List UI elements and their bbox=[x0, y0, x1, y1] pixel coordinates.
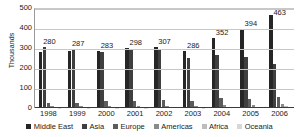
y-tick-label: 200 bbox=[12, 64, 32, 72]
y-tick-label: 300 bbox=[12, 44, 32, 52]
legend-label: Americas bbox=[161, 123, 192, 131]
bar-value-label: 307 bbox=[150, 38, 179, 46]
bar-group: 394 bbox=[236, 9, 265, 108]
bar-group: 307 bbox=[150, 9, 179, 108]
x-tick-label: 2002 bbox=[150, 110, 179, 118]
legend-swatch-icon bbox=[237, 124, 242, 129]
y-tick-label: 0 bbox=[12, 104, 32, 112]
legend-label: Europe bbox=[121, 123, 145, 131]
legend-label: Asia bbox=[90, 123, 105, 131]
x-axis-line bbox=[35, 107, 294, 108]
bar-value-label: 463 bbox=[265, 9, 294, 17]
bar-chart: Thousands 0100200300400500 2802872832983… bbox=[0, 0, 299, 137]
x-tick-label: 2003 bbox=[178, 110, 207, 118]
legend-item-americas[interactable]: Americas bbox=[154, 123, 193, 131]
bar-value-label: 298 bbox=[121, 39, 150, 47]
gridline bbox=[35, 89, 294, 90]
bars bbox=[64, 9, 93, 108]
legend-item-oceania[interactable]: Oceania bbox=[237, 123, 272, 131]
legend-swatch-icon bbox=[154, 124, 159, 129]
legend-label: Oceania bbox=[245, 123, 273, 131]
legend-item-middle-east[interactable]: Middle East bbox=[26, 123, 73, 131]
legend-swatch-icon bbox=[82, 124, 87, 129]
gridline bbox=[35, 9, 294, 10]
plot-area: 280287283298307286352394463 bbox=[34, 8, 294, 108]
bar-groups: 280287283298307286352394463 bbox=[35, 9, 294, 108]
bars bbox=[150, 9, 179, 108]
x-tick-label: 2004 bbox=[207, 110, 236, 118]
legend-swatch-icon bbox=[113, 124, 118, 129]
bar-group: 298 bbox=[121, 9, 150, 108]
bars bbox=[208, 9, 237, 108]
legend-swatch-icon bbox=[202, 124, 207, 129]
gridline bbox=[35, 69, 294, 70]
legend-swatch-icon bbox=[26, 124, 31, 129]
bar bbox=[43, 47, 46, 108]
x-tick-label: 2006 bbox=[265, 110, 294, 118]
legend-label: Middle East bbox=[34, 123, 73, 131]
bars bbox=[121, 9, 150, 108]
bar-group: 283 bbox=[93, 9, 122, 108]
bar-value-label: 394 bbox=[236, 20, 265, 28]
bar bbox=[72, 49, 75, 108]
chart-legend: Middle EastAsiaEuropeAmericasAfricaOcean… bbox=[0, 123, 299, 131]
y-tick-label: 400 bbox=[12, 24, 32, 32]
y-axis-tick-labels: 0100200300400500 bbox=[12, 4, 32, 108]
legend-item-europe[interactable]: Europe bbox=[113, 123, 145, 131]
bars bbox=[265, 9, 294, 108]
legend-label: Africa bbox=[209, 123, 228, 131]
bars bbox=[179, 9, 208, 108]
x-tick-label: 2000 bbox=[92, 110, 121, 118]
bar-group: 352 bbox=[208, 9, 237, 108]
bar-group: 280 bbox=[35, 9, 64, 108]
bar bbox=[129, 50, 132, 108]
bar-group: 287 bbox=[64, 9, 93, 108]
bar bbox=[100, 52, 103, 108]
y-tick-label: 100 bbox=[12, 84, 32, 92]
y-tick-label: 500 bbox=[12, 4, 32, 12]
bar-value-label: 287 bbox=[64, 40, 93, 48]
legend-item-asia[interactable]: Asia bbox=[82, 123, 104, 131]
bar-value-label: 280 bbox=[35, 38, 64, 46]
bars bbox=[93, 9, 122, 108]
bar-group: 463 bbox=[265, 9, 294, 108]
x-tick-label: 2001 bbox=[121, 110, 150, 118]
legend-item-africa[interactable]: Africa bbox=[202, 123, 229, 131]
gridline bbox=[35, 49, 294, 50]
x-tick-label: 2005 bbox=[236, 110, 265, 118]
x-tick-label: 1999 bbox=[63, 110, 92, 118]
bar-group: 286 bbox=[179, 9, 208, 108]
bars bbox=[35, 9, 64, 108]
gridline bbox=[35, 29, 294, 30]
x-axis-tick-labels: 199819992000200120022003200420052006 bbox=[34, 110, 294, 118]
x-tick-label: 1998 bbox=[34, 110, 63, 118]
bar bbox=[158, 49, 161, 108]
